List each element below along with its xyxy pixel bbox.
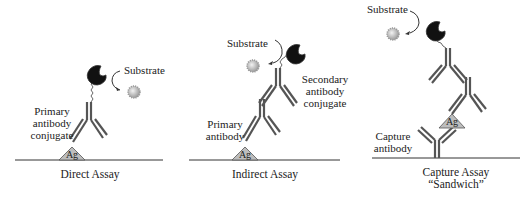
secondary-label-line2: antibody: [297, 85, 353, 97]
sandwich-assay-caption-line2: “Sandwich”: [406, 178, 506, 191]
primary-label-line1: Primary: [26, 105, 78, 117]
indirect-assay-caption: Indirect Assay: [215, 168, 315, 181]
arrowhead: [268, 61, 273, 65]
capture-antibody-icon: [418, 127, 456, 158]
arrowhead: [116, 87, 120, 91]
primary-label-line1: Primary: [200, 118, 250, 130]
substrate-label: Substrate: [124, 64, 165, 76]
substrate-icon: [387, 28, 399, 40]
secondary-antibody-conjugate-icon: [429, 48, 467, 83]
secondary-label-line3: conjugate: [297, 97, 353, 109]
substrate-arrow: [273, 40, 282, 63]
substrate-icon: [128, 86, 140, 98]
arrowhead: [405, 31, 410, 35]
substrate-arrow: [410, 11, 419, 33]
enzyme-icon: [87, 65, 106, 85]
enzyme-icon: [286, 44, 305, 64]
antigen-label: Ag: [63, 149, 81, 161]
primary-label-line2: antibody: [200, 130, 250, 142]
detection-antibody-icon: [449, 77, 486, 114]
substrate-label: Substrate: [367, 3, 408, 15]
capture-label-line1: Capture: [368, 130, 418, 142]
substrate-label: Substrate: [227, 37, 268, 49]
enzyme-icon: [426, 21, 445, 41]
substrate-icon: [247, 60, 259, 72]
antigen-label: Ag: [443, 116, 461, 128]
capture-label-line2: antibody: [368, 142, 418, 154]
antigen-label: Ag: [236, 149, 254, 161]
substrate-arrow: [112, 71, 120, 90]
direct-assay-caption: Direct Assay: [40, 168, 140, 181]
primary-label-line2: antibody: [26, 117, 78, 129]
secondary-antibody-conjugate-icon: [259, 68, 297, 106]
primary-label-line3: conjugate: [26, 129, 78, 141]
secondary-label-line1: Secondary: [297, 73, 353, 85]
